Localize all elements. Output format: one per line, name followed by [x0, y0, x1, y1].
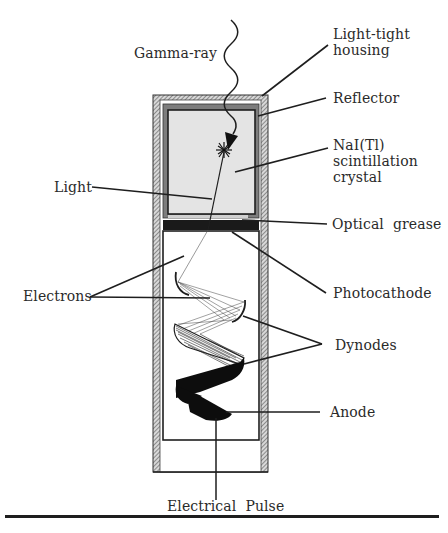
label-electrons: Electrons [23, 288, 92, 304]
label-crystal-line2: scintillation [333, 153, 418, 169]
label-dynodes: Dynodes [335, 337, 397, 353]
label-optical-grease: Optical grease [332, 216, 441, 232]
bottom-rule [5, 515, 439, 518]
label-crystal-line3: crystal [333, 169, 418, 185]
label-anode: Anode [330, 404, 375, 420]
scintillation-detector-diagram [0, 0, 448, 533]
label-reflector: Reflector [333, 90, 399, 106]
optical-grease [168, 215, 248, 218]
photocathode [163, 220, 259, 230]
label-crystal-line1: NaI(Tl) [333, 137, 418, 153]
label-housing-line1: Light-tight [333, 26, 410, 42]
label-photocathode: Photocathode [333, 285, 432, 301]
label-gamma-ray: Gamma-ray [134, 45, 217, 61]
label-crystal: NaI(Tl) scintillation crystal [333, 137, 418, 185]
label-light: Light [54, 179, 92, 195]
label-housing-line2: housing [333, 42, 410, 58]
label-electrical-pulse: Electrical Pulse [167, 498, 284, 514]
label-light-tight-housing: Light-tight housing [333, 26, 410, 58]
